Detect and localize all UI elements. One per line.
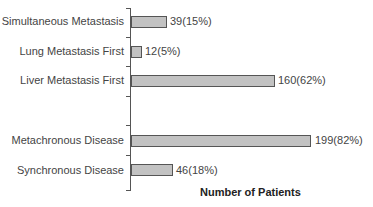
category-label: Simultaneous Metastasis <box>2 15 124 27</box>
axis-tick <box>126 66 130 67</box>
category-label: Metachronous Disease <box>11 134 124 146</box>
axis-tick <box>126 96 130 97</box>
value-label: 46(18%) <box>176 164 218 176</box>
bar-synchronous-disease <box>131 164 173 176</box>
bar-liver-metastasis-first <box>131 75 275 87</box>
bar-simultaneous-metastasis <box>131 16 167 28</box>
axis-tick <box>126 155 130 156</box>
axis-tick <box>126 125 130 126</box>
axis-tick <box>126 37 130 38</box>
category-label: Liver Metastasis First <box>20 74 124 86</box>
bar-lung-metastasis-first <box>131 46 142 58</box>
value-label: 160(62%) <box>278 74 326 86</box>
value-label: 39(15%) <box>170 15 212 27</box>
value-label: 199(82%) <box>315 134 363 146</box>
axis-tick <box>126 190 130 191</box>
axis-tick <box>126 8 130 9</box>
category-label: Synchronous Disease <box>17 164 124 176</box>
bar-metachronous-disease <box>131 135 311 147</box>
x-axis-label: Number of Patients <box>200 186 301 198</box>
category-label: Lung Metastasis First <box>19 45 124 57</box>
value-label: 12(5%) <box>145 45 180 57</box>
